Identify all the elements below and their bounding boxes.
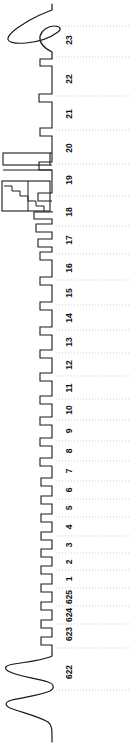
axis-tick-label: 23 <box>64 35 74 45</box>
axis-tick-label: 10 <box>64 405 74 415</box>
axis-tick-label: 5 <box>64 505 74 510</box>
axis-tick-label: 622 <box>64 665 74 679</box>
axis-tick-label: 21 <box>64 109 74 119</box>
axis-tick-label: 18 <box>64 207 74 217</box>
waveform-chart: 2322212019181716151413121110987654321625… <box>0 0 132 746</box>
axis-tick-label: 4 <box>64 524 74 529</box>
axis-tick-label: 623 <box>64 627 74 641</box>
axis-tick-label: 11 <box>64 383 74 392</box>
axis-tick-label: 3 <box>64 542 74 547</box>
axis-tick-label: 7 <box>64 468 74 473</box>
chart-container: 2322212019181716151413121110987654321625… <box>0 0 132 746</box>
axis-tick-label: 625 <box>64 590 74 604</box>
axis-tick-label: 17 <box>64 235 74 245</box>
axis-tick-label: 16 <box>64 263 74 273</box>
axis-tick-label: 14 <box>64 313 74 323</box>
axis-tick-label: 8 <box>64 448 74 453</box>
axis-tick-label: 1 <box>64 576 74 581</box>
axis-tick-label: 20 <box>64 143 74 153</box>
axis-tick-label: 12 <box>64 360 74 370</box>
axis-tick-label: 15 <box>64 288 74 298</box>
axis-tick-label: 6 <box>64 487 74 492</box>
axis-tick-label: 13 <box>64 337 74 347</box>
axis-tick-label: 2 <box>64 559 74 564</box>
axis-tick-label: 9 <box>64 428 74 433</box>
axis-tick-label: 22 <box>64 74 74 84</box>
axis-tick-label: 19 <box>64 175 74 185</box>
axis-tick-label: 624 <box>64 608 74 622</box>
